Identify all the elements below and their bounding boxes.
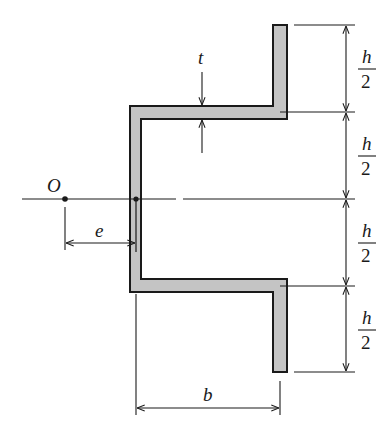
fraction-h2-4: h 2 (358, 307, 376, 353)
diagram-canvas: O e t b h 2 h 2 (0, 0, 391, 438)
fraction-h2-1: h 2 (358, 46, 376, 92)
fraction-h2-3: h 2 (358, 220, 376, 266)
svg-text:2: 2 (361, 245, 371, 266)
svg-text:2: 2 (361, 158, 371, 179)
web-midpoint (133, 196, 138, 201)
svg-text:2: 2 (361, 71, 371, 92)
svg-text:h: h (362, 220, 372, 241)
fraction-h2-2: h 2 (358, 133, 376, 179)
label-e: e (95, 220, 103, 241)
label-b: b (203, 384, 213, 405)
shear-center-point (62, 196, 68, 202)
label-o: O (47, 175, 61, 196)
svg-text:h: h (362, 46, 372, 67)
svg-text:h: h (362, 133, 372, 154)
label-t: t (198, 47, 204, 68)
svg-text:h: h (362, 307, 372, 328)
svg-text:2: 2 (361, 332, 371, 353)
